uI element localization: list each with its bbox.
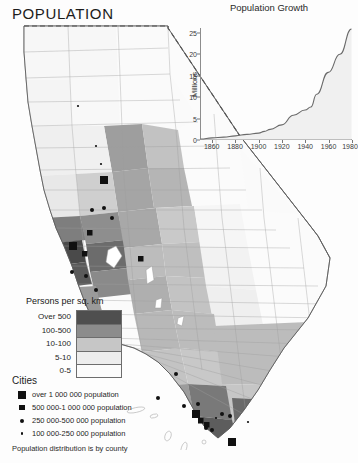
city-marker-small — [70, 270, 74, 274]
population-growth-chart[interactable]: Population Growth Millions 0 5 10 15 20 … — [183, 2, 355, 165]
chart-series-area — [200, 28, 352, 140]
city-marker-small — [220, 412, 224, 416]
chart-ytick: 15 — [189, 72, 197, 79]
cities-legend-rows: over 1 000 000 population500 000-1 000 0… — [12, 388, 192, 440]
city-legend-label: 100 000-250 000 population — [32, 429, 125, 438]
city-marker-large — [192, 410, 200, 418]
city-legend-row: over 1 000 000 population — [12, 388, 192, 401]
city-marker-small — [102, 206, 106, 210]
city-marker-small — [210, 428, 214, 432]
density-legend: Persons per sq. km Over 500100-50010-100… — [12, 296, 142, 378]
city-symbol-icon — [12, 419, 32, 423]
city-legend-label: over 1 000 000 population — [32, 390, 119, 399]
cities-legend-title: Cities — [12, 375, 192, 386]
footnote: Population distribution is by county — [12, 444, 128, 453]
chart-plot-area: Millions 0 5 10 15 20 25 1860 — [200, 28, 352, 140]
city-marker-tiny — [95, 145, 97, 147]
density-legend-label: Over 500 — [12, 310, 76, 324]
city-symbol-icon — [12, 432, 32, 434]
chart-ytick: 20 — [189, 51, 197, 58]
density-legend-swatch — [76, 351, 122, 365]
city-marker-large — [69, 242, 77, 250]
city-marker-small — [94, 288, 98, 292]
city-legend-row: 250 000-500 000 population — [12, 414, 192, 427]
density-legend-label: 5-10 — [12, 351, 76, 365]
density-legend-label: 100-500 — [12, 324, 76, 338]
city-marker-medium — [198, 418, 204, 424]
chart-xtick: 1920 — [274, 143, 290, 150]
city-marker-medium — [138, 256, 144, 262]
city-symbol-icon — [12, 405, 32, 411]
city-legend-label: 250 000-500 000 population — [32, 416, 125, 425]
city-symbol-icon — [12, 391, 32, 399]
density-legend-swatch — [76, 324, 122, 338]
city-legend-label: 500 000-1 000 000 population — [32, 403, 132, 412]
density-legend-swatch — [76, 310, 122, 324]
density-legend-rows: Over 500100-50010-1005-100-5 — [12, 310, 142, 378]
cities-legend: Cities over 1 000 000 population500 000-… — [12, 375, 192, 440]
city-marker-small — [204, 426, 208, 430]
density-legend-row: Over 500 — [12, 310, 142, 324]
city-legend-row: 100 000-250 000 population — [12, 427, 192, 440]
city-marker-small — [228, 414, 232, 418]
chart-title: Population Growth — [183, 2, 355, 13]
city-marker-medium — [87, 230, 93, 236]
chart-xtick: 1960 — [321, 143, 337, 150]
city-marker-small — [84, 274, 88, 278]
city-marker-tiny — [77, 105, 79, 107]
density-legend-row: 100-500 — [12, 324, 142, 338]
density-legend-swatch — [76, 337, 122, 351]
city-marker-small — [110, 216, 114, 220]
density-legend-row: 10-100 — [12, 337, 142, 351]
density-legend-row: 5-10 — [12, 351, 142, 365]
city-marker-large — [228, 438, 236, 446]
city-marker-large — [100, 176, 108, 184]
density-legend-title: Persons per sq. km — [26, 296, 142, 306]
city-legend-row: 500 000-1 000 000 population — [12, 401, 192, 414]
city-marker-tiny — [100, 163, 102, 165]
city-marker-tiny — [215, 417, 217, 419]
city-marker-tiny — [247, 421, 249, 423]
chart-ytick: 10 — [189, 94, 197, 101]
chart-ytick: 25 — [189, 29, 197, 36]
chart-xtick: 1940 — [297, 143, 313, 150]
chart-xtick: 1880 — [227, 143, 243, 150]
chart-xtick: 1900 — [251, 143, 267, 150]
population-map-page: POPULATION — [0, 0, 358, 463]
city-marker-medium — [82, 251, 88, 257]
city-marker-small — [196, 402, 200, 406]
chart-xtick: 1980 — [342, 143, 358, 150]
city-marker-small — [90, 208, 94, 212]
density-legend-label: 10-100 — [12, 337, 76, 351]
chart-xtick: 1860 — [204, 143, 220, 150]
